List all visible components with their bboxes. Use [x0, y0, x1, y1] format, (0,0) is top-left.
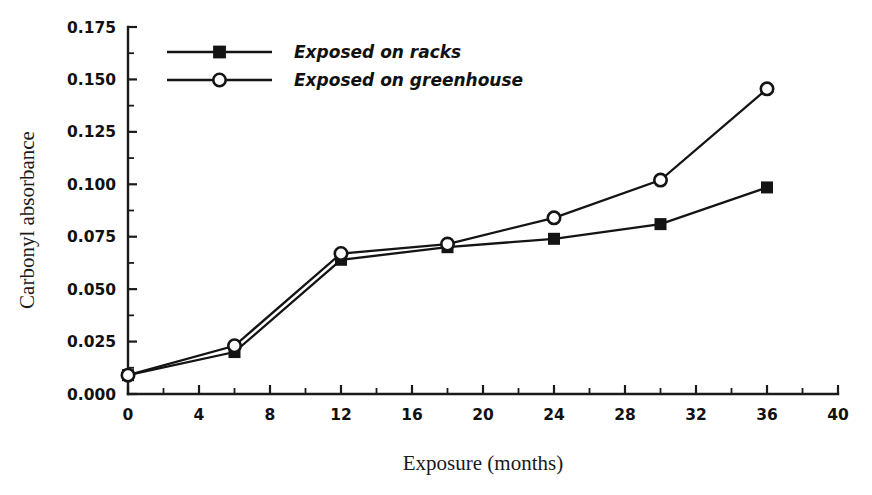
data-point-filled-square — [655, 219, 665, 229]
carbonyl-absorbance-line-chart: 0.0000.0250.0500.0750.1000.1250.1500.175… — [0, 0, 872, 495]
legend-entry-1: Exposed on racks — [167, 42, 461, 62]
legend-label: Exposed on racks — [294, 42, 461, 62]
x-tick-label: 16 — [401, 406, 423, 424]
data-point-open-circle — [654, 174, 666, 186]
y-tick-label: 0.125 — [67, 123, 116, 141]
y-tick-label: 0.175 — [67, 19, 116, 37]
series-line — [128, 187, 767, 375]
open-circle-icon — [213, 74, 225, 86]
x-axis-title: Exposure (months) — [403, 451, 563, 475]
y-tick-label: 0.025 — [67, 333, 116, 351]
series-line — [128, 89, 767, 375]
data-point-open-circle — [441, 238, 453, 250]
y-axis-tick-labels: 0.0000.0250.0500.0750.1000.1250.1500.175 — [67, 19, 116, 404]
x-tick-label: 24 — [543, 406, 565, 424]
x-tick-label: 4 — [194, 406, 205, 424]
data-point-filled-square — [762, 182, 772, 192]
y-tick-label: 0.075 — [67, 228, 116, 246]
legend-entry-2: Exposed on greenhouse — [167, 70, 523, 90]
x-tick-label: 40 — [827, 406, 849, 424]
x-tick-label: 28 — [614, 406, 636, 424]
chart-legend: Exposed on racksExposed on greenhouse — [167, 42, 523, 90]
x-tick-label: 12 — [330, 406, 352, 424]
x-tick-label: 32 — [685, 406, 707, 424]
y-tick-label: 0.050 — [67, 281, 116, 299]
x-tick-label: 8 — [265, 406, 276, 424]
filled-square-icon — [214, 46, 225, 57]
x-tick-label: 0 — [123, 406, 134, 424]
y-axis-title: Carbonyl absorbance — [15, 131, 39, 309]
chart-figure: 0.0000.0250.0500.0750.1000.1250.1500.175… — [0, 0, 872, 495]
data-point-open-circle — [228, 340, 240, 352]
x-tick-label: 20 — [472, 406, 494, 424]
data-point-filled-square — [549, 234, 559, 244]
data-point-open-circle — [548, 212, 560, 224]
x-axis-tick-labels: 0481216202428323640 — [123, 406, 849, 424]
x-tick-label: 36 — [756, 406, 778, 424]
series-2 — [122, 83, 773, 382]
y-tick-label: 0.000 — [67, 386, 116, 404]
y-tick-label: 0.150 — [67, 71, 116, 89]
data-point-open-circle — [761, 83, 773, 95]
y-tick-label: 0.100 — [67, 176, 116, 194]
data-series-layer — [122, 83, 773, 382]
data-point-open-circle — [335, 247, 347, 259]
legend-label: Exposed on greenhouse — [294, 70, 523, 90]
data-point-open-circle — [122, 369, 134, 381]
